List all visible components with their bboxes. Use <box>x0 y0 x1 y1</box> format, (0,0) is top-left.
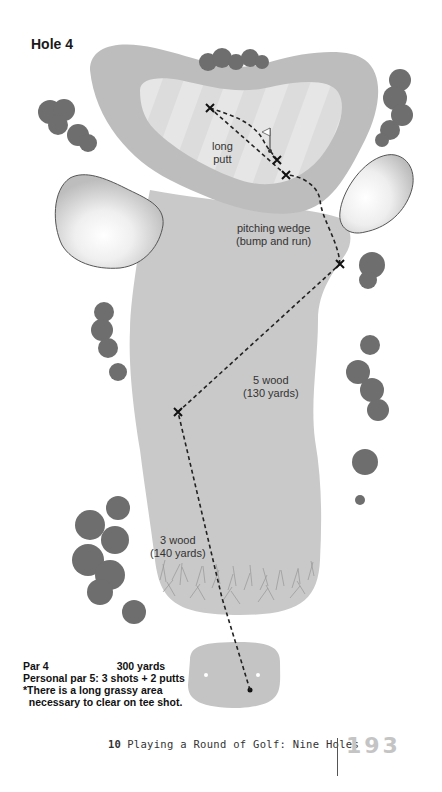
note-line-2: necessary to clear on tee shot. <box>23 696 185 708</box>
page-footer: 10Playing a Round of Golf: Nine Holes <box>108 738 359 750</box>
personal-par: Personal par 5: 3 shots + 2 putts <box>23 672 185 684</box>
footer-divider <box>337 738 338 776</box>
tee-marker-right <box>256 673 260 677</box>
left-bunker <box>55 175 163 269</box>
shot-label-long-putt: long putt <box>212 140 233 166</box>
tree-cluster-left-top <box>38 99 97 152</box>
tree-left-mid <box>91 302 127 381</box>
note-line-1: *There is a long grassy area <box>23 684 185 696</box>
shot-label-3-wood: 3 wood (140 yards) <box>150 534 206 560</box>
par-row: Par 4300 yards <box>23 660 185 672</box>
tee-marker-left <box>204 673 208 677</box>
shot-label-pitching-wedge: pitching wedge (bump and run) <box>236 222 311 248</box>
tree-cluster-top <box>199 48 269 71</box>
tree-cluster-right-top <box>375 69 413 147</box>
shot-label-5-wood: 5 wood (130 yards) <box>243 374 299 400</box>
par-label: Par 4 <box>23 660 49 672</box>
tree-cluster-right-low <box>346 335 389 505</box>
tee-box <box>188 642 280 708</box>
tree-cluster-left-low <box>72 496 146 624</box>
chapter-title: Playing a Round of Golf: Nine Holes <box>127 738 359 750</box>
hole-info: Par 4300 yards Personal par 5: 3 shots +… <box>23 660 185 708</box>
chapter-number: 10 <box>108 738 121 750</box>
page-number: 193 <box>346 733 401 758</box>
yardage: 300 yards <box>117 660 165 672</box>
tree-right-mid <box>359 252 385 289</box>
